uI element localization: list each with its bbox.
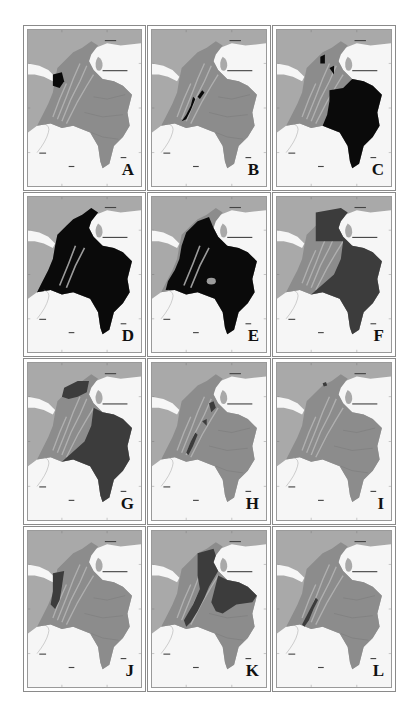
- peru-label-line: [193, 667, 199, 668]
- map-frame: J: [27, 530, 142, 688]
- brasil-label-line: [370, 491, 376, 492]
- caribbean-label-line: [355, 373, 366, 374]
- caribbean-label-line: [105, 207, 116, 208]
- map-frame: L: [276, 530, 392, 688]
- panel-letter: E: [248, 326, 259, 346]
- map-panel-i: I: [272, 358, 396, 525]
- map-frame: F: [276, 196, 392, 353]
- venezuela-label-line: [103, 571, 128, 572]
- peru-label-line: [193, 500, 199, 501]
- map-panel-f: F: [272, 192, 396, 357]
- panel-letter: G: [121, 494, 134, 514]
- map-frame: A: [27, 29, 142, 187]
- brasil-label-line: [245, 323, 251, 324]
- panel-letter: C: [372, 160, 384, 180]
- map-panel-c: C: [272, 25, 396, 191]
- panel-letter: H: [246, 494, 259, 514]
- ecuador-label-line: [288, 486, 295, 487]
- venezuela-label-line: [103, 70, 128, 71]
- ecuador-label-line: [288, 153, 295, 154]
- peru-label-line: [318, 166, 324, 167]
- map-panel-a: A: [23, 25, 146, 191]
- venezuela-label-line: [352, 403, 377, 404]
- panel-letter: F: [374, 326, 384, 346]
- panel-letter: L: [373, 661, 384, 681]
- venezuela-label-line: [103, 403, 128, 404]
- caribbean-label-line: [355, 40, 366, 41]
- caribbean-label-line: [230, 373, 241, 374]
- caribbean-label-line: [105, 373, 116, 374]
- brasil-label-line: [245, 658, 251, 659]
- peru-label-line: [69, 667, 75, 668]
- panel-letter: A: [122, 160, 134, 180]
- map-panel-e: E: [147, 192, 271, 357]
- map-frame: E: [151, 196, 267, 353]
- venezuela-label-line: [352, 70, 377, 71]
- peru-label-line: [318, 500, 324, 501]
- map-frame: H: [151, 362, 267, 521]
- peru-label-line: [69, 332, 75, 333]
- venezuela-label-line: [227, 70, 252, 71]
- caribbean-label-line: [105, 40, 116, 41]
- venezuela-label-line: [227, 403, 252, 404]
- map-frame: G: [27, 362, 142, 521]
- caribbean-label-line: [105, 541, 116, 542]
- brasil-label-line: [370, 157, 376, 158]
- caribbean-label-line: [355, 207, 366, 208]
- ecuador-label-line: [39, 486, 46, 487]
- brasil-label-line: [370, 658, 376, 659]
- venezuela-label-line: [352, 571, 377, 572]
- ecuador-label-line: [39, 654, 46, 655]
- panel-letter: B: [248, 160, 259, 180]
- venezuela-label-line: [352, 237, 377, 238]
- map-panel-g: G: [23, 358, 146, 525]
- panel-letter: I: [377, 494, 384, 514]
- map-panel-j: J: [23, 526, 146, 692]
- brasil-label-line: [370, 323, 376, 324]
- map-frame: B: [151, 29, 267, 187]
- peru-label-line: [318, 667, 324, 668]
- ecuador-label-line: [163, 319, 170, 320]
- panel-letter: D: [122, 326, 134, 346]
- caribbean-label-line: [230, 40, 241, 41]
- map-panel-l: L: [272, 526, 396, 692]
- ecuador-label-line: [163, 153, 170, 154]
- brasil-label-line: [245, 491, 251, 492]
- brasil-label-line: [121, 157, 127, 158]
- brasil-label-line: [121, 323, 127, 324]
- caribbean-label-line: [355, 541, 366, 542]
- colombia-map: [277, 363, 391, 520]
- brasil-label-line: [245, 157, 251, 158]
- ecuador-label-line: [163, 654, 170, 655]
- peru-label-line: [193, 166, 199, 167]
- panel-letter: J: [126, 661, 135, 681]
- peru-label-line: [318, 332, 324, 333]
- map-frame: K: [151, 530, 267, 688]
- venezuela-label-line: [103, 237, 128, 238]
- map-panel-d: D: [23, 192, 146, 357]
- map-frame: D: [27, 196, 142, 353]
- venezuela-label-line: [227, 571, 252, 572]
- caribbean-label-line: [230, 207, 241, 208]
- peru-label-line: [69, 166, 75, 167]
- map-panel-b: B: [147, 25, 271, 191]
- ecuador-label-line: [39, 153, 46, 154]
- peru-label-line: [69, 500, 75, 501]
- colombia-map: [28, 531, 141, 687]
- panel-letter: K: [246, 661, 259, 681]
- ecuador-label-line: [288, 654, 295, 655]
- venezuela-label-line: [227, 237, 252, 238]
- caribbean-label-line: [230, 541, 241, 542]
- brasil-label-line: [121, 658, 127, 659]
- map-frame: I: [276, 362, 392, 521]
- figure-grid: A: [23, 25, 399, 693]
- map-panel-k: K: [147, 526, 271, 692]
- map-panel-h: H: [147, 358, 271, 525]
- peru-label-line: [193, 332, 199, 333]
- map-frame: C: [276, 29, 392, 187]
- ecuador-label-line: [288, 319, 295, 320]
- ecuador-label-line: [163, 486, 170, 487]
- brasil-label-line: [121, 491, 127, 492]
- ecuador-label-line: [39, 319, 46, 320]
